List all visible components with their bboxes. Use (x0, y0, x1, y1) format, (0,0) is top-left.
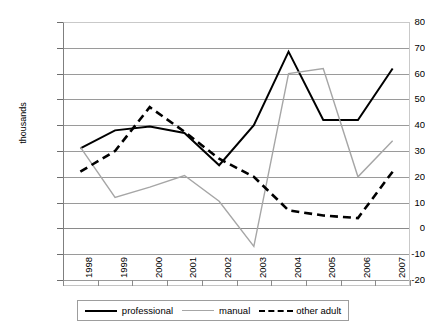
legend-label-other-adult: other adult (296, 305, 341, 316)
series-line-other-adult (80, 107, 392, 218)
legend-label-manual: manual (219, 305, 250, 316)
series-line-manual (80, 68, 392, 246)
legend-swatch-manual-icon (182, 307, 214, 315)
series-lines (0, 0, 425, 329)
chart-legend: professional manual other adult (77, 300, 349, 321)
legend-swatch-professional-icon (85, 307, 117, 315)
line-chart: thousands 80706050403020100-10-20 199819… (0, 0, 425, 329)
legend-swatch-other-adult-icon (259, 307, 291, 315)
legend-item-manual: manual (182, 305, 250, 316)
legend-item-other-adult: other adult (259, 305, 341, 316)
legend-label-professional: professional (122, 305, 173, 316)
legend-item-professional: professional (85, 305, 173, 316)
series-line-professional (80, 52, 392, 166)
